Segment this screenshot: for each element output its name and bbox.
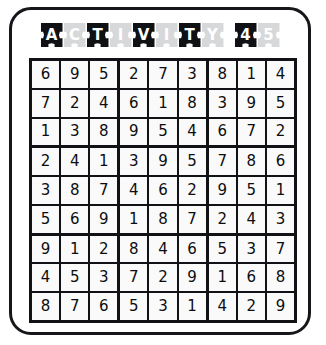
sudoku-cell-r9c1[interactable]: 8 bbox=[32, 293, 59, 320]
title-tile-v: V bbox=[133, 23, 155, 47]
sudoku-cell-r4c9[interactable]: 6 bbox=[267, 148, 294, 175]
sudoku-cell-r3c5[interactable]: 5 bbox=[149, 119, 176, 146]
sudoku-cell-r3c4[interactable]: 9 bbox=[120, 119, 147, 146]
title-tile-t: T bbox=[179, 23, 201, 47]
sudoku-cell-r3c8[interactable]: 7 bbox=[238, 119, 265, 146]
title-tile-c: C bbox=[64, 23, 86, 47]
sudoku-box-r2c3: 786951243 bbox=[209, 148, 294, 232]
sudoku-cell-r3c7[interactable]: 6 bbox=[209, 119, 236, 146]
sudoku-cell-r5c4[interactable]: 4 bbox=[120, 177, 147, 204]
sudoku-cell-r2c7[interactable]: 3 bbox=[209, 90, 236, 117]
sudoku-cell-r4c1[interactable]: 2 bbox=[32, 148, 59, 175]
sudoku-cell-r6c9[interactable]: 3 bbox=[267, 206, 294, 233]
sudoku-cell-r9c5[interactable]: 3 bbox=[149, 293, 176, 320]
sudoku-cell-r7c2[interactable]: 1 bbox=[61, 236, 88, 263]
sudoku-cell-r6c2[interactable]: 6 bbox=[61, 206, 88, 233]
sudoku-cell-r9c9[interactable]: 9 bbox=[267, 293, 294, 320]
sudoku-cell-r6c5[interactable]: 8 bbox=[149, 206, 176, 233]
sudoku-cell-r8c9[interactable]: 8 bbox=[267, 264, 294, 291]
sudoku-cell-r7c4[interactable]: 8 bbox=[120, 236, 147, 263]
sudoku-cell-r5c2[interactable]: 8 bbox=[61, 177, 88, 204]
sudoku-cell-r2c3[interactable]: 4 bbox=[90, 90, 117, 117]
sudoku-cell-r9c4[interactable]: 5 bbox=[120, 293, 147, 320]
title-tile-y: Y bbox=[202, 23, 224, 47]
sudoku-cell-r3c6[interactable]: 4 bbox=[179, 119, 206, 146]
sudoku-cell-r7c5[interactable]: 4 bbox=[149, 236, 176, 263]
sudoku-cell-r1c4[interactable]: 2 bbox=[120, 61, 147, 88]
title-tile-4: 4 bbox=[235, 23, 257, 47]
sudoku-cell-r9c3[interactable]: 6 bbox=[90, 293, 117, 320]
sudoku-cell-r5c9[interactable]: 1 bbox=[267, 177, 294, 204]
sudoku-cell-r2c2[interactable]: 2 bbox=[61, 90, 88, 117]
sudoku-cell-r8c5[interactable]: 2 bbox=[149, 264, 176, 291]
sudoku-cell-r9c6[interactable]: 1 bbox=[179, 293, 206, 320]
title-spacer bbox=[225, 23, 234, 47]
sudoku-cell-r3c2[interactable]: 3 bbox=[61, 119, 88, 146]
sudoku-cell-r7c1[interactable]: 9 bbox=[32, 236, 59, 263]
sudoku-cell-r2c5[interactable]: 1 bbox=[149, 90, 176, 117]
sudoku-cell-r4c7[interactable]: 7 bbox=[209, 148, 236, 175]
sudoku-cell-r8c7[interactable]: 1 bbox=[209, 264, 236, 291]
sudoku-cell-r6c4[interactable]: 1 bbox=[120, 206, 147, 233]
sudoku-cell-r5c5[interactable]: 6 bbox=[149, 177, 176, 204]
sudoku-box-r2c2: 395462187 bbox=[120, 148, 205, 232]
sudoku-cell-r8c4[interactable]: 7 bbox=[120, 264, 147, 291]
sudoku-cell-r9c8[interactable]: 2 bbox=[238, 293, 265, 320]
sudoku-box-r1c3: 814395672 bbox=[209, 61, 294, 145]
sudoku-box-r3c2: 846729531 bbox=[120, 236, 205, 320]
sudoku-cell-r7c6[interactable]: 6 bbox=[179, 236, 206, 263]
sudoku-box-r2c1: 241387569 bbox=[32, 148, 117, 232]
sudoku-cell-r6c8[interactable]: 4 bbox=[238, 206, 265, 233]
sudoku-cell-r7c8[interactable]: 3 bbox=[238, 236, 265, 263]
sudoku-cell-r4c2[interactable]: 4 bbox=[61, 148, 88, 175]
sudoku-cell-r2c9[interactable]: 5 bbox=[267, 90, 294, 117]
sudoku-cell-r9c7[interactable]: 4 bbox=[209, 293, 236, 320]
sudoku-cell-r3c1[interactable]: 1 bbox=[32, 119, 59, 146]
sudoku-box-r3c3: 537168429 bbox=[209, 236, 294, 320]
sudoku-cell-r7c9[interactable]: 7 bbox=[267, 236, 294, 263]
page-title: ACTIVITY45 bbox=[12, 18, 308, 52]
sudoku-cell-r7c3[interactable]: 2 bbox=[90, 236, 117, 263]
sudoku-cell-r6c7[interactable]: 2 bbox=[209, 206, 236, 233]
sudoku-cell-r2c8[interactable]: 9 bbox=[238, 90, 265, 117]
title-tile-i: I bbox=[110, 23, 132, 47]
sudoku-cell-r6c1[interactable]: 5 bbox=[32, 206, 59, 233]
sudoku-cell-r7c7[interactable]: 5 bbox=[209, 236, 236, 263]
sudoku-cell-r6c6[interactable]: 7 bbox=[179, 206, 206, 233]
sudoku-cell-r8c1[interactable]: 4 bbox=[32, 264, 59, 291]
sudoku-cell-r1c5[interactable]: 7 bbox=[149, 61, 176, 88]
sudoku-cell-r5c1[interactable]: 3 bbox=[32, 177, 59, 204]
sudoku-cell-r1c7[interactable]: 8 bbox=[209, 61, 236, 88]
sudoku-cell-r5c7[interactable]: 9 bbox=[209, 177, 236, 204]
sudoku-cell-r3c3[interactable]: 8 bbox=[90, 119, 117, 146]
sudoku-cell-r1c6[interactable]: 3 bbox=[179, 61, 206, 88]
sudoku-cell-r2c4[interactable]: 6 bbox=[120, 90, 147, 117]
title-tile-i: I bbox=[156, 23, 178, 47]
sudoku-cell-r8c3[interactable]: 3 bbox=[90, 264, 117, 291]
sudoku-cell-r1c9[interactable]: 4 bbox=[267, 61, 294, 88]
sudoku-cell-r4c8[interactable]: 8 bbox=[238, 148, 265, 175]
sudoku-cell-r1c3[interactable]: 5 bbox=[90, 61, 117, 88]
sudoku-cell-r8c2[interactable]: 5 bbox=[61, 264, 88, 291]
sudoku-cell-r5c8[interactable]: 5 bbox=[238, 177, 265, 204]
sudoku-cell-r8c6[interactable]: 9 bbox=[179, 264, 206, 291]
sudoku-box-r1c2: 273618954 bbox=[120, 61, 205, 145]
sudoku-cell-r1c1[interactable]: 6 bbox=[32, 61, 59, 88]
sudoku-cell-r4c3[interactable]: 1 bbox=[90, 148, 117, 175]
sudoku-cell-r9c2[interactable]: 7 bbox=[61, 293, 88, 320]
sudoku-cell-r4c6[interactable]: 5 bbox=[179, 148, 206, 175]
sudoku-cell-r2c6[interactable]: 8 bbox=[179, 90, 206, 117]
sudoku-cell-r2c1[interactable]: 7 bbox=[32, 90, 59, 117]
sudoku-box-r3c1: 912453876 bbox=[32, 236, 117, 320]
sudoku-cell-r1c2[interactable]: 9 bbox=[61, 61, 88, 88]
title-tile-t: T bbox=[87, 23, 109, 47]
sudoku-cell-r5c3[interactable]: 7 bbox=[90, 177, 117, 204]
sudoku-cell-r1c8[interactable]: 1 bbox=[238, 61, 265, 88]
sudoku-cell-r3c9[interactable]: 2 bbox=[267, 119, 294, 146]
sudoku-cell-r4c5[interactable]: 9 bbox=[149, 148, 176, 175]
sudoku-grid: 6957241382736189548143956722413875693954… bbox=[29, 58, 297, 323]
sudoku-cell-r6c3[interactable]: 9 bbox=[90, 206, 117, 233]
sudoku-cell-r8c8[interactable]: 6 bbox=[238, 264, 265, 291]
sudoku-cell-r4c4[interactable]: 3 bbox=[120, 148, 147, 175]
sudoku-cell-r5c6[interactable]: 2 bbox=[179, 177, 206, 204]
